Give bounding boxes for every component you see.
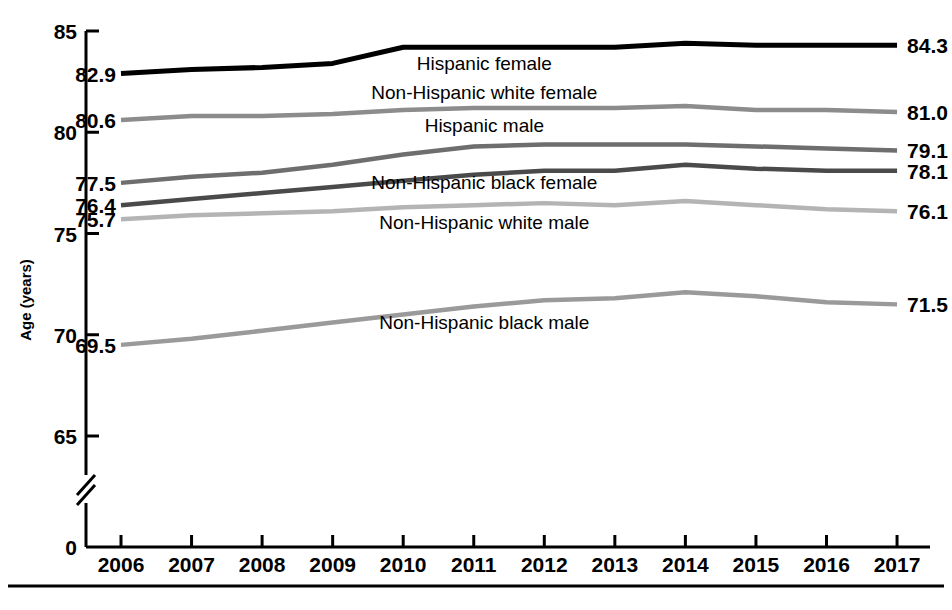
x-tick-label: 2017 xyxy=(874,553,921,576)
x-tick-label: 2006 xyxy=(98,553,145,576)
x-tick-label: 2011 xyxy=(451,553,497,576)
x-tick-label: 2008 xyxy=(239,553,286,576)
figure-container: Age (years) 06570758085 2006200720082009… xyxy=(0,0,952,610)
y-tick-label: 65 xyxy=(54,425,78,448)
y-axis-tick-labels: 06570758085 xyxy=(54,20,78,559)
x-tick-label: 2009 xyxy=(309,553,356,576)
end-value-label: 78.1 xyxy=(907,160,948,183)
series-label: Non-Hispanic white female xyxy=(371,82,597,103)
series-label: Non-Hispanic black male xyxy=(379,312,589,333)
x-tick-label: 2010 xyxy=(380,553,427,576)
x-axis-tick-labels: 2006200720082009201020112012201320142015… xyxy=(98,553,921,576)
start-value-label: 82.9 xyxy=(75,63,116,86)
series-label: Hispanic female xyxy=(417,53,552,74)
start-value-labels: 82.980.677.576.475.769.5 xyxy=(75,63,116,357)
series-label: Non-Hispanic white male xyxy=(379,212,589,233)
y-tick-label: 80 xyxy=(54,121,77,144)
x-tick-label: 2015 xyxy=(733,553,780,576)
end-value-label: 76.1 xyxy=(907,200,948,223)
end-value-label: 84.3 xyxy=(907,34,948,57)
x-tick-label: 2014 xyxy=(662,553,709,576)
end-value-label: 71.5 xyxy=(907,293,948,316)
start-value-label: 69.5 xyxy=(75,334,116,357)
y-tick-label: 0 xyxy=(65,536,77,559)
start-value-label: 80.6 xyxy=(75,109,116,132)
start-value-label: 77.5 xyxy=(75,172,116,195)
end-value-label: 81.0 xyxy=(907,101,948,124)
x-tick-label: 2013 xyxy=(591,553,638,576)
y-axis-title: Age (years) xyxy=(17,259,34,341)
series-inline-labels: Hispanic femaleNon-Hispanic white female… xyxy=(371,53,597,332)
x-tick-label: 2007 xyxy=(168,553,215,576)
start-value-label: 75.7 xyxy=(75,208,116,231)
y-tick-label: 70 xyxy=(54,324,77,347)
series-label: Hispanic male xyxy=(425,115,544,136)
y-tick-label: 75 xyxy=(54,223,78,246)
life-expectancy-line-chart: Age (years) 06570758085 2006200720082009… xyxy=(0,0,952,610)
x-tick-label: 2012 xyxy=(521,553,568,576)
x-tick-label: 2016 xyxy=(803,553,850,576)
series-label: Non-Hispanic black female xyxy=(371,172,597,193)
end-value-labels: 84.381.079.178.176.171.5 xyxy=(907,34,948,316)
y-tick-label: 85 xyxy=(54,20,78,43)
